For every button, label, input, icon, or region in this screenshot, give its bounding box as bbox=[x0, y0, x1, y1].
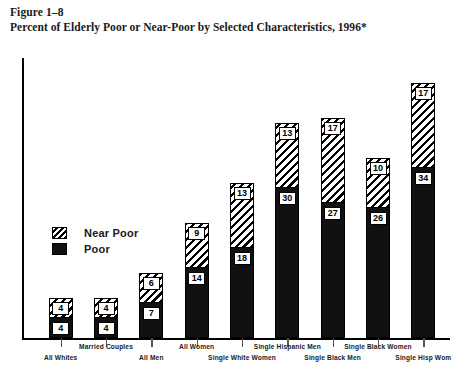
bar-group: 1734 bbox=[411, 83, 435, 338]
chart-plot-area: Near Poor Poor 4444679141318133017271026… bbox=[22, 58, 450, 340]
bar-segment-near-poor: 10 bbox=[366, 158, 390, 208]
x-axis-label: Single Black Women bbox=[344, 343, 411, 350]
bar-value-poor: 18 bbox=[234, 252, 251, 265]
bar-segment-poor: 14 bbox=[185, 268, 209, 338]
bar-group: 1727 bbox=[321, 118, 345, 338]
bar-segment-near-poor: 17 bbox=[411, 83, 435, 168]
bar-value-near-poor: 17 bbox=[324, 122, 341, 135]
bar-segment-poor: 27 bbox=[321, 203, 345, 338]
bar-segment-near-poor: 4 bbox=[49, 298, 73, 318]
figure-number: Figure 1–8 bbox=[10, 5, 450, 19]
bar-value-poor: 7 bbox=[143, 307, 160, 320]
bar-segment-poor: 30 bbox=[275, 188, 299, 338]
bar-segment-poor: 26 bbox=[366, 208, 390, 338]
bars-layer: 44446791413181330172710261734 bbox=[24, 58, 450, 338]
bar-segment-poor: 7 bbox=[139, 303, 163, 338]
legend-swatch-poor-icon bbox=[52, 243, 67, 255]
bar-group: 44 bbox=[49, 298, 73, 338]
bar-segment-near-poor: 17 bbox=[321, 118, 345, 203]
legend-swatch-near-poor-icon bbox=[52, 227, 67, 239]
x-axis-label: Single Hisp Wom bbox=[395, 354, 451, 361]
bar-value-poor: 27 bbox=[324, 207, 341, 220]
bar-value-poor: 30 bbox=[279, 192, 296, 205]
x-axis-label: All Men bbox=[139, 354, 164, 361]
bar-value-near-poor: 13 bbox=[234, 187, 251, 200]
figure-title: Percent of Elderly Poor or Near-Poor by … bbox=[10, 20, 450, 35]
bar-segment-poor: 34 bbox=[411, 168, 435, 338]
bar-segment-poor: 4 bbox=[49, 318, 73, 338]
x-axis-label: All Women bbox=[179, 343, 214, 350]
x-axis-label: All Whites bbox=[44, 354, 77, 361]
bar-segment-near-poor: 4 bbox=[94, 298, 118, 318]
bar-value-near-poor: 17 bbox=[415, 87, 432, 100]
bar-value-poor: 26 bbox=[370, 212, 387, 225]
bar-value-poor: 34 bbox=[415, 172, 432, 185]
legend-item-poor: Poor bbox=[52, 242, 138, 256]
bar-group: 1330 bbox=[275, 123, 299, 338]
bar-group: 67 bbox=[139, 273, 163, 338]
chart-legend: Near Poor Poor bbox=[52, 226, 138, 258]
bar-segment-near-poor: 13 bbox=[275, 123, 299, 188]
bar-value-poor: 4 bbox=[98, 322, 115, 335]
title-block: Figure 1–8 Percent of Elderly Poor or Ne… bbox=[10, 5, 450, 35]
bar-segment-poor: 4 bbox=[94, 318, 118, 338]
x-axis-label: Single Hispanic Men bbox=[254, 343, 321, 350]
legend-label-poor: Poor bbox=[84, 243, 110, 255]
legend-label-near-poor: Near Poor bbox=[84, 227, 138, 239]
bar-value-poor: 14 bbox=[188, 272, 205, 285]
bar-group: 1026 bbox=[366, 158, 390, 338]
bar-segment-poor: 18 bbox=[230, 248, 254, 338]
bar-value-near-poor: 6 bbox=[143, 277, 160, 290]
bar-value-near-poor: 4 bbox=[52, 302, 69, 315]
bar-segment-near-poor: 9 bbox=[185, 223, 209, 268]
bar-value-near-poor: 10 bbox=[370, 162, 387, 175]
bar-group: 44 bbox=[94, 298, 118, 338]
bar-segment-near-poor: 6 bbox=[139, 273, 163, 303]
bar-group: 1318 bbox=[230, 183, 254, 338]
bar-group: 914 bbox=[185, 223, 209, 338]
bar-value-poor: 4 bbox=[52, 322, 69, 335]
x-axis-label: Married Couples bbox=[79, 343, 133, 350]
legend-item-near-poor: Near Poor bbox=[52, 226, 138, 240]
x-axis-line bbox=[22, 338, 450, 340]
bar-value-near-poor: 9 bbox=[188, 227, 205, 240]
bar-segment-near-poor: 13 bbox=[230, 183, 254, 248]
x-axis-labels: All WhitesMarried CouplesAll MenAll Wome… bbox=[0, 341, 454, 377]
bar-value-near-poor: 13 bbox=[279, 127, 296, 140]
x-axis-label: Single White Women bbox=[208, 354, 276, 361]
x-axis-label: Single Black Men bbox=[304, 354, 361, 361]
bar-value-near-poor: 4 bbox=[98, 302, 115, 315]
